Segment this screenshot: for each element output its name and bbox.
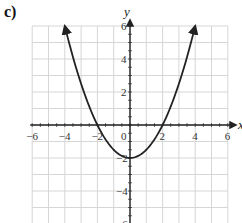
x-tick-label: −4 — [59, 130, 71, 142]
x-tick-label: 4 — [192, 130, 198, 142]
y-tick-label: 2 — [121, 86, 127, 98]
y-axis-label: y — [122, 4, 130, 19]
x-tick-label: 2 — [160, 130, 166, 142]
y-tick-label: 4 — [121, 53, 127, 65]
y-tick-label: 6 — [121, 20, 127, 32]
x-tick-label: 6 — [225, 130, 231, 142]
y-tick-label: −4 — [116, 185, 128, 197]
x-axis-label: x — [237, 117, 242, 132]
x-tick-label: 0 — [121, 130, 127, 142]
x-tick-label: −6 — [26, 130, 38, 142]
y-tick-label: −6 — [116, 218, 128, 223]
parabola-chart: xy−6−4−20246−6−4−2246 — [0, 0, 242, 223]
